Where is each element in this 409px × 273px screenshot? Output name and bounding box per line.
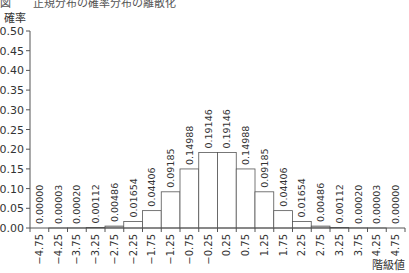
y-tick-label: 0.10 bbox=[0, 183, 24, 196]
y-axis: 0.000.050.100.150.200.250.300.350.400.45… bbox=[0, 25, 30, 235]
x-tick-label: 4.25 bbox=[371, 234, 382, 256]
x-tick-label: 2.25 bbox=[296, 234, 307, 256]
bar-value-label: 0.01654 bbox=[296, 178, 307, 217]
bar-value-label: 0.04406 bbox=[146, 167, 157, 206]
y-tick-label: 0.40 bbox=[0, 64, 24, 77]
x-tick-label: −0.75 bbox=[184, 234, 195, 265]
x-tick-label: 1.25 bbox=[259, 234, 270, 256]
histogram-bar bbox=[274, 211, 293, 228]
x-tick-label: −1.75 bbox=[146, 234, 157, 265]
bar-value-label: 0.00000 bbox=[34, 185, 45, 224]
x-tick-label: 3.25 bbox=[334, 234, 345, 256]
bar-value-label: 0.09185 bbox=[259, 149, 270, 188]
x-tick-label: 2.75 bbox=[315, 234, 326, 256]
bar-value-label: 0.14988 bbox=[184, 126, 195, 165]
histogram-bar bbox=[236, 169, 255, 228]
x-tick-label: 4.75 bbox=[390, 234, 401, 256]
bar-value-label: 0.00020 bbox=[353, 185, 364, 224]
y-tick-label: 0.50 bbox=[0, 25, 24, 38]
bar-value-label: 0.00003 bbox=[53, 185, 64, 224]
x-tick-label: −2.75 bbox=[109, 234, 120, 265]
y-tick-label: 0.20 bbox=[0, 143, 24, 156]
bar-value-label: 0.00020 bbox=[71, 185, 82, 224]
histogram-bar bbox=[218, 153, 237, 228]
y-tick-label: 0.35 bbox=[0, 84, 24, 97]
x-tick-label: −3.25 bbox=[90, 234, 101, 265]
histogram-bar bbox=[199, 153, 218, 228]
bar-value-label: 0.00486 bbox=[315, 183, 326, 222]
x-tick-label: −3.75 bbox=[71, 234, 82, 265]
y-tick-label: 0.25 bbox=[0, 124, 24, 137]
x-tick-label: −1.25 bbox=[165, 234, 176, 265]
histogram-bar bbox=[143, 211, 162, 228]
x-tick-label: −2.25 bbox=[128, 234, 139, 265]
y-tick-label: 0.45 bbox=[0, 45, 24, 58]
bar-value-label: 0.00112 bbox=[90, 184, 101, 223]
x-tick-label: −0.25 bbox=[203, 234, 214, 265]
x-axis: −4.75−4.25−3.75−3.25−2.75−2.25−1.75−1.25… bbox=[30, 228, 405, 265]
bar-value-label: 0.09185 bbox=[165, 149, 176, 188]
x-tick-label: −4.25 bbox=[53, 234, 64, 265]
y-tick-label: 0.15 bbox=[0, 163, 24, 176]
bar-value-label: 0.14988 bbox=[240, 126, 251, 165]
bar-value-label: 0.01654 bbox=[128, 178, 139, 217]
bar-value-label: 0.00486 bbox=[109, 183, 120, 222]
x-tick-label: −4.75 bbox=[34, 234, 45, 265]
x-tick-label: 1.75 bbox=[278, 234, 289, 256]
histogram-bar bbox=[161, 192, 180, 228]
bar-value-label: 0.19146 bbox=[221, 109, 232, 148]
x-tick-label: 0.25 bbox=[221, 234, 232, 256]
bar-value-label: 0.00003 bbox=[371, 185, 382, 224]
bars: 0.000000.000030.000200.001120.004860.016… bbox=[34, 109, 401, 228]
bar-value-label: 0.19146 bbox=[203, 109, 214, 148]
x-tick-label: 0.75 bbox=[240, 234, 251, 256]
y-tick-label: 0.05 bbox=[0, 202, 24, 215]
bar-value-label: 0.00000 bbox=[390, 185, 401, 224]
histogram-bar bbox=[293, 221, 312, 228]
histogram-bar bbox=[180, 169, 199, 228]
y-tick-label: 0.00 bbox=[0, 222, 24, 235]
histogram-bar bbox=[255, 192, 274, 228]
bar-value-label: 0.04406 bbox=[278, 167, 289, 206]
x-tick-label: 3.75 bbox=[353, 234, 364, 256]
y-tick-label: 0.30 bbox=[0, 104, 24, 117]
histogram-chart: 0.000.050.100.150.200.250.300.350.400.45… bbox=[0, 0, 409, 273]
bar-value-label: 0.00112 bbox=[334, 184, 345, 223]
histogram-bar bbox=[124, 221, 143, 228]
